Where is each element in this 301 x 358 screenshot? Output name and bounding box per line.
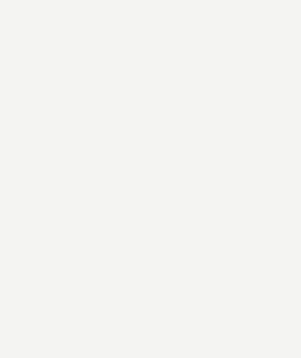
xiangqi-board — [0, 0, 301, 358]
